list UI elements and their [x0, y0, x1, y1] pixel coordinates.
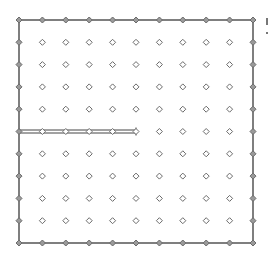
- grid-dot[interactable]: [16, 129, 22, 135]
- grid-dot[interactable]: [180, 195, 186, 201]
- grid-dot[interactable]: [180, 218, 186, 224]
- grid-dot[interactable]: [16, 218, 22, 224]
- grid-dot[interactable]: [86, 218, 92, 224]
- grid-dot[interactable]: [63, 173, 69, 179]
- grid-dot[interactable]: [86, 17, 92, 23]
- grid-dot[interactable]: [203, 195, 209, 201]
- grid-dot[interactable]: [63, 151, 69, 157]
- grid-dot[interactable]: [227, 17, 233, 23]
- grid-dot[interactable]: [203, 17, 209, 23]
- grid-dot[interactable]: [156, 17, 162, 23]
- grid-dot[interactable]: [133, 129, 139, 135]
- grid-dot[interactable]: [156, 195, 162, 201]
- grid-dot[interactable]: [203, 39, 209, 45]
- grid-dot[interactable]: [16, 84, 22, 90]
- grid-dot[interactable]: [180, 129, 186, 135]
- grid-dot[interactable]: [250, 173, 256, 179]
- grid-dot[interactable]: [133, 218, 139, 224]
- grid-dot[interactable]: [156, 39, 162, 45]
- grid-dot[interactable]: [110, 106, 116, 112]
- grid-dot[interactable]: [250, 17, 256, 23]
- grid-dot[interactable]: [227, 62, 233, 68]
- grid-dot[interactable]: [227, 151, 233, 157]
- grid-dot[interactable]: [39, 84, 45, 90]
- grid-dot[interactable]: [86, 39, 92, 45]
- grid-dot[interactable]: [86, 240, 92, 246]
- grid-dot[interactable]: [156, 84, 162, 90]
- grid-dot[interactable]: [180, 17, 186, 23]
- grid-dot[interactable]: [227, 240, 233, 246]
- grid-dot[interactable]: [227, 39, 233, 45]
- grid-dot[interactable]: [39, 62, 45, 68]
- grid-dot[interactable]: [110, 62, 116, 68]
- grid-dot[interactable]: [63, 218, 69, 224]
- grid-dots[interactable]: [16, 17, 256, 246]
- grid-dot[interactable]: [250, 151, 256, 157]
- grid-dot[interactable]: [63, 84, 69, 90]
- grid-dot[interactable]: [39, 106, 45, 112]
- grid-dot[interactable]: [180, 106, 186, 112]
- grid-dot[interactable]: [227, 129, 233, 135]
- grid-dot[interactable]: [110, 195, 116, 201]
- grid-dot[interactable]: [250, 195, 256, 201]
- grid-dot[interactable]: [86, 195, 92, 201]
- grid-dot[interactable]: [86, 62, 92, 68]
- grid-dot[interactable]: [63, 106, 69, 112]
- grid-dot[interactable]: [86, 84, 92, 90]
- grid-dot[interactable]: [250, 218, 256, 224]
- grid-dot[interactable]: [180, 39, 186, 45]
- grid-dot[interactable]: [39, 173, 45, 179]
- grid-dot[interactable]: [133, 106, 139, 112]
- grid-dot[interactable]: [39, 39, 45, 45]
- grid-dot[interactable]: [156, 62, 162, 68]
- grid-dot[interactable]: [227, 106, 233, 112]
- grid-dot[interactable]: [39, 129, 45, 135]
- grid-dot[interactable]: [16, 17, 22, 23]
- grid-dot[interactable]: [39, 17, 45, 23]
- grid-dot[interactable]: [63, 240, 69, 246]
- grid-dot[interactable]: [63, 195, 69, 201]
- grid-dot[interactable]: [110, 218, 116, 224]
- grid-dot[interactable]: [110, 129, 116, 135]
- grid-dot[interactable]: [16, 39, 22, 45]
- grid-dot[interactable]: [63, 62, 69, 68]
- grid-dot[interactable]: [86, 129, 92, 135]
- grid-dot[interactable]: [203, 129, 209, 135]
- grid-dot[interactable]: [39, 218, 45, 224]
- grid-dot[interactable]: [86, 106, 92, 112]
- grid-dot[interactable]: [110, 173, 116, 179]
- grid-dot[interactable]: [180, 173, 186, 179]
- grid-dot[interactable]: [227, 195, 233, 201]
- grid-dot[interactable]: [133, 151, 139, 157]
- grid-dot[interactable]: [180, 151, 186, 157]
- grid-dot[interactable]: [133, 240, 139, 246]
- grid-dot[interactable]: [156, 240, 162, 246]
- grid-dot[interactable]: [133, 84, 139, 90]
- grid-dot[interactable]: [110, 84, 116, 90]
- grid-dot[interactable]: [16, 151, 22, 157]
- grid-dot[interactable]: [203, 151, 209, 157]
- grid-dot[interactable]: [250, 84, 256, 90]
- grid-dot[interactable]: [16, 173, 22, 179]
- grid-dot[interactable]: [180, 62, 186, 68]
- grid-dot[interactable]: [39, 195, 45, 201]
- grid-dot[interactable]: [203, 240, 209, 246]
- grid-dot[interactable]: [180, 240, 186, 246]
- grid-dot[interactable]: [203, 84, 209, 90]
- grid-dot[interactable]: [203, 173, 209, 179]
- grid-dot[interactable]: [180, 84, 186, 90]
- grid-dot[interactable]: [156, 218, 162, 224]
- grid-dot[interactable]: [227, 173, 233, 179]
- grid-dot[interactable]: [203, 62, 209, 68]
- grid-dot[interactable]: [39, 240, 45, 246]
- grid-dot[interactable]: [86, 151, 92, 157]
- grid-dot[interactable]: [110, 17, 116, 23]
- grid-dot[interactable]: [86, 173, 92, 179]
- grid-dot[interactable]: [133, 173, 139, 179]
- grid-dot[interactable]: [133, 39, 139, 45]
- grid-dot[interactable]: [203, 218, 209, 224]
- grid-dot[interactable]: [110, 240, 116, 246]
- grid-dot[interactable]: [250, 240, 256, 246]
- grid-dot[interactable]: [250, 39, 256, 45]
- grid-dot[interactable]: [156, 151, 162, 157]
